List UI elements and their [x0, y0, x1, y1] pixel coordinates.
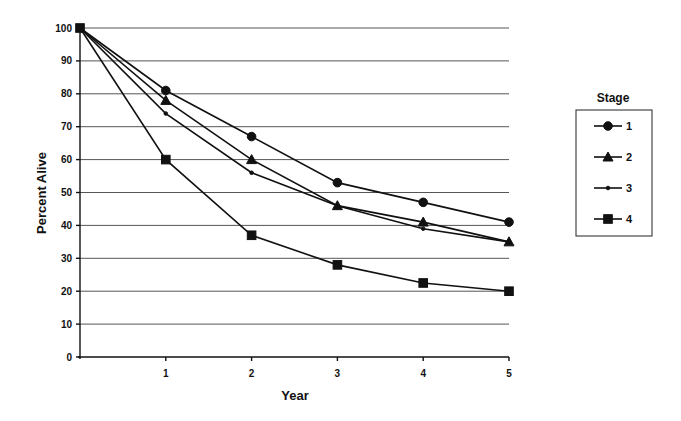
dot-marker-icon: [336, 204, 340, 208]
legend-title: Stage: [597, 91, 630, 105]
square-marker-icon: [247, 231, 256, 240]
legend-label: 4: [626, 213, 633, 225]
series-line: [80, 28, 509, 242]
circle-marker-icon: [505, 218, 514, 227]
dot-marker-icon: [164, 112, 168, 116]
y-tick-label: 60: [61, 154, 73, 165]
legend: Stage 1234: [576, 91, 652, 236]
legend-label: 1: [626, 120, 632, 132]
circle-marker-icon: [247, 132, 256, 141]
y-tick-label: 10: [61, 319, 73, 330]
y-tick-label: 40: [61, 220, 73, 231]
square-marker-icon: [419, 279, 428, 288]
x-tick-label: 2: [249, 368, 255, 379]
legend-label: 2: [626, 151, 632, 163]
circle-marker-icon: [604, 122, 613, 131]
dot-marker-icon: [606, 186, 610, 190]
legend-box: [576, 110, 652, 236]
y-tick-label: 100: [55, 23, 72, 34]
survival-line-chart: 0102030405060708090100 12345 Percent Ali…: [0, 0, 681, 421]
series-stage-3: [80, 28, 511, 244]
legend-label: 3: [626, 182, 632, 194]
y-tick-label: 50: [61, 187, 73, 198]
y-axis-title: Percent Alive: [34, 152, 49, 234]
circle-marker-icon: [419, 198, 428, 207]
y-tick-label: 0: [66, 352, 72, 363]
circle-marker-icon: [333, 178, 342, 187]
x-axis: 12345: [78, 357, 512, 379]
y-tick-label: 30: [61, 253, 73, 264]
dot-marker-icon: [507, 240, 511, 244]
square-marker-icon: [333, 261, 342, 270]
square-marker-icon: [76, 24, 85, 33]
y-tick-label: 80: [61, 88, 73, 99]
square-marker-icon: [505, 287, 514, 296]
gridlines: [80, 28, 509, 324]
x-axis-title: Year: [281, 388, 308, 403]
circle-marker-icon: [162, 86, 171, 95]
x-tick-label: 1: [163, 368, 169, 379]
dot-marker-icon: [421, 227, 425, 231]
square-marker-icon: [162, 155, 171, 164]
square-marker-icon: [604, 215, 613, 224]
x-tick-label: 5: [506, 368, 512, 379]
x-tick-label: 3: [335, 368, 341, 379]
y-tick-label: 20: [61, 286, 73, 297]
y-tick-label: 70: [61, 121, 73, 132]
y-axis: 0102030405060708090100: [55, 23, 80, 363]
dot-marker-icon: [250, 171, 254, 175]
series-line: [80, 28, 509, 242]
x-tick-label: 4: [420, 368, 426, 379]
y-tick-label: 90: [61, 55, 73, 66]
